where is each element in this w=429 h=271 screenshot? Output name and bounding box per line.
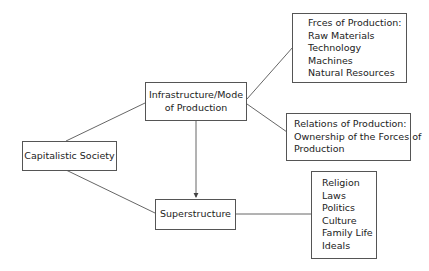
node-label-line2: of Production	[165, 102, 228, 115]
list-item: Ideals	[322, 240, 368, 253]
node-capitalistic-society: Capitalistic Society	[22, 141, 117, 171]
list-item: Culture	[322, 215, 368, 228]
node-title: Frces of Production:	[308, 17, 398, 30]
node-label-line1: Infrastructure/Mode	[149, 89, 243, 102]
node-infrastructure: Infrastructure/Mode of Production	[145, 82, 247, 121]
node-line: Ownership of the Forces of	[294, 131, 402, 144]
node-line: Production	[294, 143, 402, 156]
list-item: Religion	[322, 177, 368, 190]
list-item: Politics	[322, 202, 368, 215]
edge-infra-forces	[247, 47, 293, 99]
list-item: Machines	[308, 55, 398, 68]
node-superstructure: Superstructure	[155, 199, 236, 230]
node-label: Superstructure	[160, 208, 231, 221]
node-relations-of-production: Relations of Production: Ownership of th…	[286, 113, 411, 161]
list-item: Natural Resources	[308, 67, 398, 80]
node-label: Capitalistic Society	[24, 150, 114, 163]
node-line: Relations of Production:	[294, 118, 402, 131]
list-item: Family Life	[322, 227, 368, 240]
edge-root-super	[66, 170, 155, 213]
node-superstructure-elements: Religion Laws Politics Culture Family Li…	[311, 171, 377, 259]
edge-root-infra	[66, 103, 145, 141]
list-item: Technology	[308, 42, 398, 55]
node-forces-of-production: Frces of Production: Raw Materials Techn…	[292, 13, 407, 83]
list-item: Laws	[322, 190, 368, 203]
list-item: Raw Materials	[308, 30, 398, 43]
